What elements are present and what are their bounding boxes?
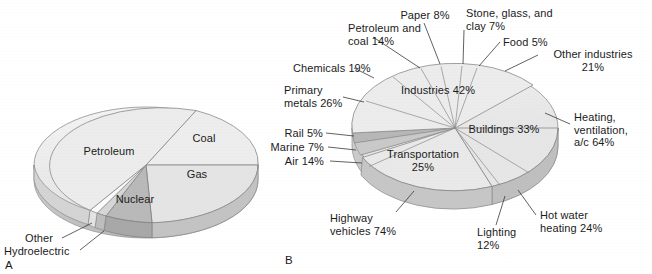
panel-letter-b: B: [285, 254, 293, 266]
panel-a-pie: [34, 107, 258, 250]
leader-hydroelectric: [80, 231, 104, 250]
leader-rail: [326, 133, 354, 136]
leader-food: [479, 42, 500, 66]
leader-hot-water-heating: [518, 190, 536, 215]
label-transportation: Transportation 25%: [375, 148, 471, 173]
leader-stone-glass-clay: [463, 30, 464, 64]
label-lighting: Lighting 12%: [477, 226, 516, 251]
label-hydroelectric: Hydroelectric: [4, 245, 70, 258]
label-rail: Rail 5%: [265, 127, 323, 140]
label-heating-ventilation-ac: Heating, ventilation, a/c 64%: [574, 111, 628, 149]
label-air: Air 14%: [266, 155, 324, 168]
label-other-industries: Other industries 21%: [541, 48, 645, 73]
label-food: Food 5%: [503, 36, 548, 49]
label-petroleum: Petroleum: [61, 145, 157, 158]
figure-energy-use-pie-charts: Petroleum Coal Gas Nuclear Other Hydroel…: [0, 0, 652, 274]
panel-letter-a: A: [5, 259, 13, 271]
label-hot-water-heating: Hot water heating 24%: [540, 209, 602, 234]
label-gas: Gas: [173, 168, 221, 181]
label-other: Other: [25, 232, 53, 245]
label-industries: Industries 42%: [393, 84, 483, 97]
leader-other-industries: [505, 55, 538, 71]
label-marine: Marine 7%: [258, 141, 324, 154]
label-highway-vehicles: Highway vehicles 74%: [330, 212, 396, 237]
leader-paper: [424, 23, 440, 64]
label-paper: Paper 8%: [396, 9, 454, 22]
label-primary-metals: Primary metals 26%: [284, 84, 342, 109]
label-coal: Coal: [177, 132, 231, 145]
label-nuclear: Nuclear: [104, 193, 166, 206]
label-petroleum-and-coal: Petroleum and coal 14%: [348, 22, 421, 47]
label-buildings: Buildings 33%: [462, 123, 546, 136]
label-chemicals: Chemicals 19%: [293, 62, 371, 75]
label-stone-glass-clay: Stone, glass, and clay 7%: [466, 7, 553, 32]
